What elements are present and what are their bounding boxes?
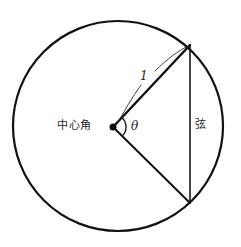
radius-upper-line bbox=[113, 45, 190, 127]
central-angle-label: 中心角 bbox=[57, 120, 92, 131]
chord-label: 弦 bbox=[195, 119, 207, 130]
center-dot bbox=[110, 124, 117, 131]
geometry-figure: 中心角 θ 1 弦 bbox=[0, 0, 241, 247]
theta-label: θ bbox=[131, 120, 138, 132]
radius-lower-line bbox=[113, 127, 190, 203]
radius-length-label: 1 bbox=[140, 70, 148, 82]
circle-outline bbox=[13, 21, 223, 231]
leader-line-upper-icon bbox=[155, 46, 188, 71]
central-angle-arc bbox=[122, 118, 126, 137]
